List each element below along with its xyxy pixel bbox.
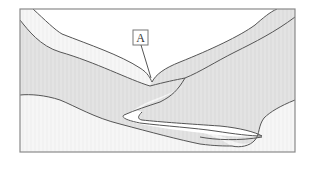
label-a-text: A [136,31,145,45]
geologic-fold-diagram: A [0,0,322,176]
